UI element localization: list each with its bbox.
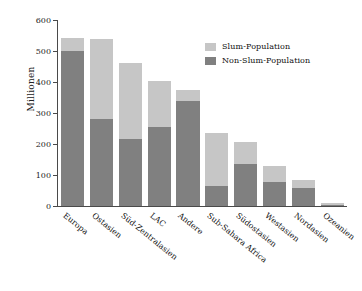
- bar-westasien: [263, 166, 286, 206]
- bar-nordasien: [292, 180, 315, 206]
- bar-ostasien: [90, 39, 113, 206]
- y-tick-label: 500: [36, 47, 51, 56]
- category-label: LAC: [148, 211, 167, 229]
- y-axis-label: Millionen: [26, 44, 36, 134]
- legend-label-slum: Slum-Population: [222, 42, 290, 51]
- stacked-bar-chart: Millionen 0100200300400500600 EuropaOsta…: [0, 0, 362, 291]
- y-tick-mark: [53, 20, 57, 21]
- y-tick-label: 100: [36, 171, 51, 180]
- bar-segment-non-slum: [292, 188, 315, 206]
- y-tick-label: 400: [36, 78, 51, 87]
- bar-segment-slum: [292, 180, 315, 188]
- legend-swatch-non-slum: [205, 57, 216, 65]
- chart-legend: Slum-Population Non-Slum-Population: [205, 42, 310, 70]
- legend-item-slum: Slum-Population: [205, 42, 310, 51]
- bar-segment-non-slum: [263, 182, 286, 206]
- category-label: Andere: [177, 211, 205, 236]
- bar-europa: [61, 38, 84, 206]
- bar-segment-non-slum: [321, 205, 344, 206]
- bar-lac: [148, 81, 171, 206]
- bar-segment-non-slum: [148, 127, 171, 206]
- bar-segment-non-slum: [119, 139, 142, 206]
- y-tick-mark: [53, 175, 57, 176]
- legend-swatch-slum: [205, 43, 216, 51]
- bar-segment-non-slum: [176, 101, 199, 206]
- y-tick-mark: [53, 51, 57, 52]
- bar-andere: [176, 90, 199, 206]
- bar-segment-slum: [61, 38, 84, 51]
- y-tick-mark: [53, 113, 57, 114]
- bar-ozeanien: [321, 203, 344, 206]
- bar-segment-non-slum: [234, 164, 257, 206]
- y-tick-label: 200: [36, 140, 51, 149]
- bar-s-d-zentralasien: [119, 63, 142, 206]
- y-tick-mark: [53, 82, 57, 83]
- bar-sub-sahara-africa: [205, 133, 228, 206]
- bar-segment-slum: [176, 90, 199, 101]
- category-label: Europa: [61, 211, 90, 237]
- y-tick-mark: [53, 206, 57, 207]
- bar-segment-non-slum: [205, 186, 228, 206]
- y-tick-label: 600: [36, 16, 51, 25]
- bar-segment-non-slum: [61, 51, 84, 206]
- y-tick-label: 300: [36, 109, 51, 118]
- x-axis-line: [57, 206, 347, 207]
- bar-segment-slum: [119, 63, 142, 139]
- category-label: Ostasien: [90, 211, 123, 240]
- legend-item-non-slum: Non-Slum-Population: [205, 56, 310, 65]
- y-tick-label: 0: [46, 202, 51, 211]
- bar-segment-non-slum: [90, 119, 113, 206]
- bar-segment-slum: [148, 81, 171, 127]
- bar-s-dostasien: [234, 142, 257, 206]
- legend-label-non-slum: Non-Slum-Population: [222, 56, 310, 65]
- bar-segment-slum: [234, 142, 257, 165]
- y-tick-mark: [53, 144, 57, 145]
- bar-segment-slum: [263, 166, 286, 182]
- bar-segment-slum: [90, 39, 113, 119]
- bar-segment-slum: [205, 133, 228, 186]
